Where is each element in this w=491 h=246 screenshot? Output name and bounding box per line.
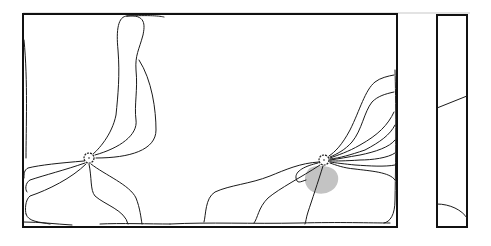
flow-line (24, 40, 27, 158)
flow-line (95, 16, 144, 155)
flow-line (89, 164, 128, 224)
main-panel-frame (23, 14, 397, 227)
side-line (437, 96, 467, 108)
flow-line (330, 162, 395, 166)
diagram-canvas (0, 0, 491, 246)
side-panel-lines (437, 96, 467, 218)
flow-line (204, 162, 319, 222)
flow-line (25, 164, 86, 214)
left-node-flow-lines (24, 16, 164, 224)
left-node-center-dot (88, 157, 90, 159)
flow-line (93, 16, 127, 154)
nodes (84, 153, 329, 165)
flow-line (24, 161, 84, 178)
right-node-center-dot (323, 159, 325, 161)
right-node-flow-lines (170, 70, 396, 224)
edge-line (24, 222, 72, 225)
bottom-edge-lines (24, 222, 170, 225)
flow-line (26, 163, 85, 192)
flow-line (91, 164, 142, 224)
flow-line (170, 223, 390, 224)
flow-line (96, 60, 156, 158)
side-panel-frame (437, 15, 467, 227)
diagram-figure (0, 0, 491, 246)
side-line (437, 204, 467, 218)
